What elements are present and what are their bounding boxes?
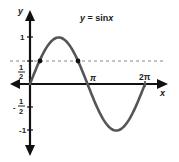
svg-text:-: - (13, 103, 16, 112)
svg-text:2: 2 (19, 107, 23, 116)
sine-graph: y = sinx y x 1 1 2 - 1 2 -1 π 2π (0, 0, 179, 162)
x-tick-label-pi: π (90, 73, 97, 83)
y-tick-label-neg-1: -1 (19, 126, 27, 135)
point-pi-over-6 (38, 59, 43, 64)
svg-text:2: 2 (19, 72, 23, 81)
y-axis-down-arrow-icon (25, 145, 35, 156)
y-axis-up-arrow-icon (25, 10, 35, 21)
svg-text:1: 1 (19, 97, 23, 106)
y-tick-label-neg-half: - 1 2 (13, 97, 25, 116)
y-tick-label-half: 1 2 (18, 63, 25, 81)
y-axis-label: y (17, 6, 24, 16)
chart-title: y = sinx (79, 13, 114, 23)
svg-text:1: 1 (19, 63, 23, 72)
x-axis-label: x (159, 88, 166, 98)
x-tick-label-2pi: 2π (139, 72, 151, 82)
point-5pi-over-6 (76, 59, 81, 64)
y-tick-label-1: 1 (20, 33, 25, 42)
